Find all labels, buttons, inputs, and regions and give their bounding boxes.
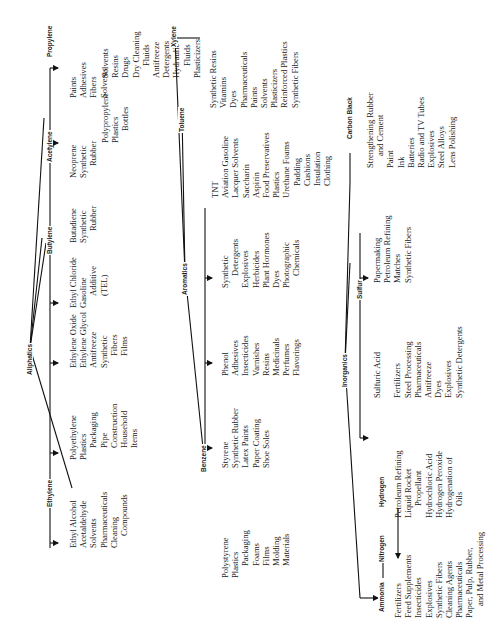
list-item: Strengthening Rubber bbox=[365, 92, 375, 168]
list-item: Reinforced Plastics bbox=[279, 41, 289, 108]
ethyl-chloride-group: Ethyl Chloride GasolineAdditive (TEL) bbox=[68, 257, 109, 308]
list-item: Fibers bbox=[109, 312, 119, 368]
node-aromatics: Aromatics bbox=[181, 262, 188, 296]
list-item: Synthetic Detergents bbox=[454, 326, 464, 398]
list-item: Synthetic bbox=[220, 232, 230, 288]
list-item: Resins bbox=[110, 31, 120, 78]
list-item: Explosives bbox=[443, 326, 453, 398]
list-item: Solvents bbox=[88, 492, 98, 548]
list-item: Rubber bbox=[88, 206, 98, 243]
neoprene-group: Neoprene SyntheticRubber bbox=[68, 141, 99, 178]
list-item: Polyethylene bbox=[68, 404, 78, 460]
list-item: Matches bbox=[392, 215, 402, 283]
node-acetylene: Acetylene bbox=[46, 130, 53, 163]
node-nitrogen: Nitrogen bbox=[378, 534, 385, 563]
ammonia-uses: FertilizersFeed Supplements Insecticides… bbox=[393, 532, 485, 618]
list-item: Antifreeze bbox=[423, 326, 433, 398]
node-butylene: Butylene bbox=[46, 226, 53, 255]
phenol-group: Phenol AdhesivesInsecticides VarnishesRe… bbox=[220, 335, 302, 376]
list-item: Pharmaceuticals bbox=[454, 532, 464, 618]
list-item: Adhesives bbox=[230, 335, 240, 376]
list-item: Plastics bbox=[78, 404, 88, 460]
list-item: Ethylene Glycol bbox=[78, 312, 88, 368]
list-item: Polystyrene bbox=[220, 530, 230, 578]
toluene-uses: TNTAviation Gasoline Lacquer SolventsSac… bbox=[210, 132, 332, 198]
list-item: Padding bbox=[292, 132, 302, 198]
list-item: Pipe bbox=[99, 404, 109, 460]
list-item: Medicinals bbox=[271, 335, 281, 376]
list-item: Pharmaceuticals bbox=[239, 41, 249, 108]
list-item: Urethane Foams bbox=[281, 132, 291, 198]
node-inorganics: Inorganics bbox=[341, 353, 348, 388]
list-item: Solvents bbox=[259, 41, 269, 108]
list-item: Insecticides bbox=[240, 335, 250, 376]
list-item: Papermaking bbox=[372, 215, 382, 283]
list-item: Synthetic Resins bbox=[208, 41, 218, 108]
list-item: Steel Processing bbox=[403, 326, 413, 398]
node-aliphatics: Aliphatics bbox=[26, 343, 33, 376]
styrene-group: Styrene Synthetic RubberLatex Paints Pap… bbox=[220, 408, 271, 468]
list-item: Gasoline bbox=[78, 257, 88, 308]
list-item: Ethylene Oxide bbox=[68, 312, 78, 368]
carbon-black-uses: Strengthening Rubberand Cement PaintInk … bbox=[365, 92, 457, 168]
list-item: Cleaning Agents bbox=[444, 532, 454, 618]
list-item: Bottles bbox=[120, 93, 130, 143]
list-item: Neoprene bbox=[68, 141, 78, 178]
list-item: (TEL) bbox=[99, 257, 109, 308]
list-item: Clothing bbox=[322, 132, 332, 198]
node-xylene: Xylene bbox=[170, 25, 177, 48]
list-item: Dyes bbox=[271, 232, 281, 288]
list-item: Hydrochloric Acid bbox=[424, 450, 434, 518]
list-item: Plastics bbox=[230, 530, 240, 578]
petrochemical-tree-diagram: Aliphatics Ethylene Butylene Acetylene P… bbox=[0, 0, 492, 638]
list-item: Synthetic Fibers bbox=[290, 41, 300, 108]
list-item: Ethyl Chloride bbox=[68, 257, 78, 308]
list-item: Paper, Pulp, Rubber, bbox=[464, 532, 474, 618]
list-item: Antifreeze bbox=[151, 31, 161, 78]
list-item: Steel Alloys bbox=[436, 92, 446, 168]
list-item: Radio and TV Tubes bbox=[416, 92, 426, 168]
sulfur-uses: PapermakingPetroleum Refining MatchesSyn… bbox=[372, 215, 413, 283]
list-item: Packaging bbox=[240, 530, 250, 578]
list-item: Drugs bbox=[120, 31, 130, 78]
node-ammonia: Ammonia bbox=[378, 581, 385, 613]
list-item: Additive bbox=[88, 257, 98, 308]
list-item: Resins bbox=[261, 335, 271, 376]
list-item: Acetaldehyde bbox=[78, 492, 88, 548]
list-item: Plant Hormones bbox=[261, 232, 271, 288]
list-item: Polypropylene bbox=[100, 93, 110, 143]
list-item: Explosives bbox=[426, 92, 436, 168]
list-item: Pharmaceuticals bbox=[99, 492, 109, 548]
list-item: Propellant bbox=[413, 450, 423, 518]
list-item: Dry Cleaning bbox=[131, 31, 141, 78]
list-item: Synthetic Rubber bbox=[230, 408, 240, 468]
list-item: Solvents bbox=[100, 31, 110, 78]
list-item: Construction bbox=[109, 404, 119, 460]
list-item: Packaging bbox=[88, 404, 98, 460]
ethyl-alcohol-group: Ethyl Alcohol AcetaldehydeSolvents Pharm… bbox=[68, 492, 129, 548]
list-item: Ethyl Alcohol bbox=[68, 492, 78, 548]
list-item: Pharmaceuticals bbox=[413, 326, 423, 398]
list-item: Rubber bbox=[88, 141, 98, 178]
list-item: Synthetic Fibers bbox=[434, 532, 444, 618]
list-item: Photographic bbox=[281, 232, 291, 288]
list-item: Batteries bbox=[406, 92, 416, 168]
list-item: Fluids bbox=[141, 31, 151, 78]
list-item: Aspirin bbox=[251, 132, 261, 198]
list-item: Insulation bbox=[312, 132, 322, 198]
list-item: Aviation Gasoline bbox=[220, 132, 230, 198]
propylene-uses: SolventsResins DrugsDry Cleaning FluidsA… bbox=[100, 31, 202, 78]
list-item: Compounds bbox=[119, 492, 129, 548]
hydrogen-uses: Petroleum RefiningLiquid Rocket Propella… bbox=[393, 450, 464, 518]
list-item: Fibers bbox=[88, 62, 98, 98]
list-item: Oils bbox=[454, 450, 464, 518]
list-item: Molding bbox=[271, 530, 281, 578]
list-item: Dyes bbox=[433, 326, 443, 398]
ethylene-oxide-group: Ethylene Oxide Ethylene Glycol Antifreez… bbox=[68, 312, 129, 368]
list-item: Hydrogenation of bbox=[444, 450, 454, 518]
list-item: Explosives bbox=[240, 232, 250, 288]
node-benzene: Benzene bbox=[200, 444, 207, 473]
list-item: Dyes bbox=[228, 41, 238, 108]
list-item: Fertilizers bbox=[393, 532, 403, 618]
list-item: Synthetic Fibers bbox=[403, 215, 413, 283]
